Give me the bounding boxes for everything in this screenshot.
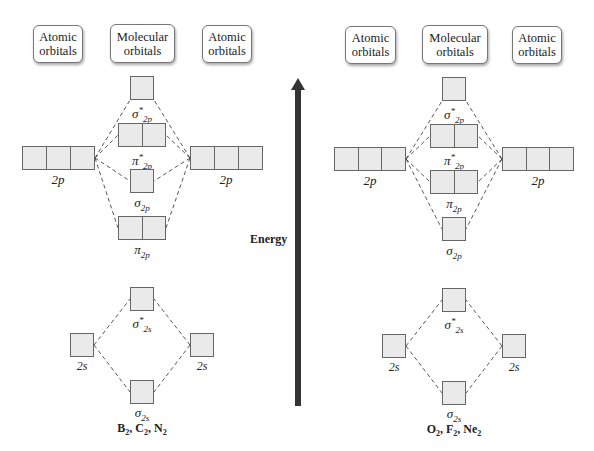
orbital-sigma-star-2p [130, 76, 154, 100]
orbital-pi-star-2p-2 [430, 124, 478, 148]
energy-arrow-shaft [295, 88, 301, 406]
orbital-2p-right-atom [190, 146, 263, 170]
label-sigma-star-2s: σ*2s [112, 313, 172, 336]
energy-arrow-head [291, 78, 305, 90]
orbital-sigma-2p [130, 169, 154, 193]
orbital-2p-right-atom-2 [502, 147, 574, 171]
orbital-pi-2p-2 [430, 170, 478, 194]
label-2s-left: 2s [52, 359, 112, 373]
label-sigma-2p: σ2p [112, 196, 172, 215]
orbital-pi-star-2p [118, 123, 166, 147]
label-2p-right: 2p [196, 173, 256, 187]
label-sigma-2p-2: σ2p [424, 244, 484, 263]
label-sigma-star-2s-2: σ*2s [424, 314, 484, 337]
label-2s-left-2: 2s [364, 360, 424, 374]
orbital-2s-left-atom [70, 333, 94, 357]
orbital-sigma-2p-2 [442, 217, 466, 241]
label-pi-2p: π2p [112, 243, 172, 262]
orbital-2p-left-atom [22, 146, 95, 170]
orbital-sigma-2s-2 [442, 381, 466, 405]
label-2s-right: 2s [172, 359, 232, 373]
label-2s-right-2: 2s [484, 360, 544, 374]
correlation-lines [0, 0, 594, 451]
molecule-label-left: B2, C2, N2 [82, 421, 202, 437]
orbital-2s-right-atom [190, 333, 214, 357]
orbital-sigma-2s [130, 380, 154, 404]
orbital-sigma-star-2p-2 [442, 77, 466, 101]
energy-axis-label: Energy [250, 232, 287, 247]
label-2p-right-2: 2p [508, 174, 568, 188]
orbital-2p-left-atom-2 [334, 147, 406, 171]
label-2p-left: 2p [28, 173, 88, 187]
molecule-label-right: O2, F2, Ne2 [394, 422, 514, 438]
orbital-sigma-star-2s [130, 287, 154, 311]
orbital-pi-2p [118, 216, 166, 240]
orbital-2s-left-atom-2 [382, 334, 406, 358]
orbital-2s-right-atom-2 [502, 334, 526, 358]
label-pi-2p-2: π2p [424, 197, 484, 216]
orbital-sigma-star-2s-2 [442, 288, 466, 312]
label-2p-left-2: 2p [340, 174, 400, 188]
